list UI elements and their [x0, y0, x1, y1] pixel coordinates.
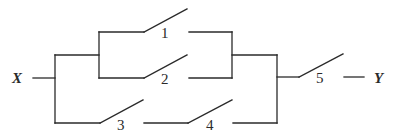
switch-2-label: 2 — [161, 71, 169, 87]
switch-4-label: 4 — [206, 117, 214, 133]
switch-1-label: 1 — [161, 25, 169, 41]
switch-5-label: 5 — [316, 70, 324, 86]
switch-3-label: 3 — [117, 117, 125, 133]
switch-1: 1 — [99, 9, 232, 41]
circuit-diagram: X 1 2 3 4 5 Y — [0, 0, 396, 136]
output-label-y: Y — [374, 70, 385, 86]
input-label-x: X — [11, 70, 23, 86]
switch-2: 2 — [99, 55, 232, 87]
switch-4: 4 — [188, 100, 277, 133]
switch-3: 3 — [55, 100, 188, 133]
switch-5: 5 — [277, 54, 343, 86]
